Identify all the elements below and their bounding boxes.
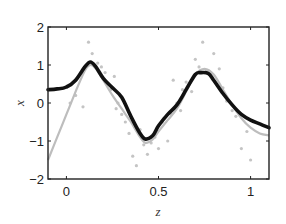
observation-point — [194, 58, 197, 61]
observation-point — [179, 109, 182, 112]
observation-point — [234, 115, 237, 118]
observation-point — [146, 153, 149, 156]
observation-point — [185, 81, 188, 84]
observation-point — [212, 52, 215, 55]
observation-point — [131, 155, 134, 158]
observation-point — [87, 41, 90, 44]
observation-point — [103, 71, 106, 74]
observation-point — [240, 147, 243, 150]
observation-point — [96, 62, 99, 65]
observation-point — [190, 90, 193, 93]
x-tick-label: 0.5 — [149, 184, 167, 199]
plot-frame — [48, 27, 269, 179]
observation-point — [91, 52, 94, 55]
observation-point — [197, 65, 200, 68]
observation-point — [113, 75, 116, 78]
observation-point — [245, 130, 248, 133]
observation-point — [127, 132, 130, 135]
observation-point — [201, 41, 204, 44]
x-axis-label: z — [154, 204, 160, 219]
observation-point — [218, 67, 221, 70]
observation-point — [231, 109, 234, 112]
observation-point — [172, 79, 175, 82]
observation-points — [69, 41, 253, 168]
x-tick-label: 1 — [247, 184, 254, 199]
observation-point — [100, 65, 103, 68]
estimate-line — [48, 62, 269, 139]
observation-point — [81, 105, 84, 108]
observation-point — [124, 120, 127, 123]
y-tick-label: −2 — [29, 172, 44, 187]
y-tick-label: 0 — [37, 96, 44, 111]
observation-point — [166, 139, 169, 142]
observation-point — [135, 164, 138, 167]
y-tick-label: −1 — [29, 134, 44, 149]
observation-point — [115, 107, 118, 110]
true-function-line — [48, 65, 269, 160]
x-tick-label: 0 — [63, 184, 70, 199]
y-axis-label: x — [12, 100, 27, 107]
line-chart: 00.51 −2−1012 z x — [0, 0, 286, 224]
observation-point — [157, 147, 160, 150]
y-tick-label: 2 — [37, 20, 44, 35]
observation-point — [249, 158, 252, 161]
y-tick-label: 1 — [37, 58, 44, 73]
observation-point — [120, 113, 123, 116]
